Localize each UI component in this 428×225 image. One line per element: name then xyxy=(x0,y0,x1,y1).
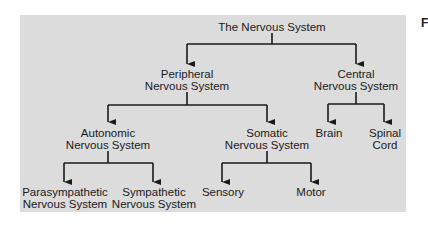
node-nervous-system: The Nervous System xyxy=(218,21,325,33)
node-label-line2: Cord xyxy=(369,139,401,151)
node-label-line1: Central xyxy=(314,68,398,80)
node-label-line1: Somatic xyxy=(225,127,309,139)
node-sympathetic-nervous-system: Sympathetic Nervous System xyxy=(112,186,196,210)
node-label: The Nervous System xyxy=(218,21,325,33)
node-label: Sensory xyxy=(202,186,244,198)
node-central-nervous-system: Central Nervous System xyxy=(314,68,398,92)
node-label: Motor xyxy=(296,186,325,198)
node-label-line2: Nervous System xyxy=(314,80,398,92)
node-peripheral-nervous-system: Peripheral Nervous System xyxy=(145,68,229,92)
node-label-line1: Parasympathetic xyxy=(22,186,108,198)
node-motor: Motor xyxy=(296,186,325,198)
node-label-line2: Nervous System xyxy=(225,139,309,151)
node-parasympathetic-nervous-system: Parasympathetic Nervous System xyxy=(22,186,108,210)
node-label-line2: Nervous System xyxy=(145,80,229,92)
node-label-line1: Peripheral xyxy=(145,68,229,80)
node-label: Brain xyxy=(316,127,343,139)
node-label-line2: Nervous System xyxy=(112,198,196,210)
figure-label: F xyxy=(421,16,428,30)
node-sensory: Sensory xyxy=(202,186,244,198)
node-label-line1: Spinal xyxy=(369,127,401,139)
node-brain: Brain xyxy=(316,127,343,139)
node-label-line1: Sympathetic xyxy=(112,186,196,198)
node-autonomic-nervous-system: Autonomic Nervous System xyxy=(66,127,150,151)
node-label-line2: Nervous System xyxy=(66,139,150,151)
node-somatic-nervous-system: Somatic Nervous System xyxy=(225,127,309,151)
node-spinal-cord: Spinal Cord xyxy=(369,127,401,151)
node-label-line2: Nervous System xyxy=(22,198,108,210)
node-label-line1: Autonomic xyxy=(66,127,150,139)
